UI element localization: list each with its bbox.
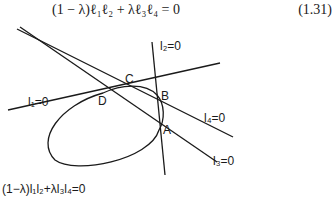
label-l2: l₂=0: [160, 39, 181, 53]
point-c: C: [125, 72, 134, 86]
label-l3: l₃=0: [213, 154, 235, 168]
label-l1: l₁=0: [28, 95, 49, 109]
line-l3: [20, 27, 217, 162]
point-b: B: [161, 89, 169, 103]
point-a: A: [163, 123, 171, 137]
label-l4: l₄=0: [204, 111, 226, 125]
conic-equation-label: (1−λ)l₁l₂+λl₃l₄=0: [2, 182, 86, 196]
point-d: D: [98, 94, 107, 108]
conic-pencil-diagram: l₁=0 l₂=0 l₄=0 l₃=0 A B C D (1−λ)l₁l₂+λl…: [0, 0, 335, 200]
